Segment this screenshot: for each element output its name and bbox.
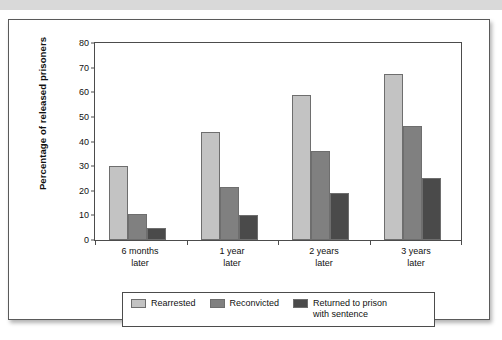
bar — [403, 126, 422, 241]
bar — [330, 193, 349, 240]
bar-group — [187, 43, 279, 240]
x-axis-label-line2: later — [186, 258, 278, 270]
legend-swatch — [131, 299, 146, 308]
legend-label: Rearrested — [151, 298, 196, 309]
top-decorative-band — [0, 0, 502, 10]
x-axis-label: 1 yearlater — [186, 246, 278, 269]
x-axis-label-line2: later — [278, 258, 370, 270]
bar — [220, 187, 239, 240]
x-axis-label-line2: later — [370, 258, 462, 270]
bar-series-layer — [95, 43, 461, 240]
bar-group-inner — [292, 43, 349, 240]
x-tick-mark — [95, 240, 96, 245]
bar — [422, 178, 441, 240]
x-axis-label-line1: 3 years — [401, 246, 431, 256]
bar — [384, 74, 403, 240]
y-axis-title: Percentage of released prisoners — [37, 34, 48, 194]
bar — [109, 166, 128, 240]
x-axis-label: 2 yearslater — [278, 246, 370, 269]
bar-group-inner — [109, 43, 166, 240]
x-axis-label-line1: 6 months — [121, 246, 158, 256]
bar — [147, 228, 166, 240]
plot-area: 80706050403020100 — [94, 42, 462, 241]
x-axis-label-line2: later — [94, 258, 186, 270]
legend-swatch — [210, 299, 225, 308]
x-axis-label-line1: 2 years — [309, 246, 339, 256]
bar — [311, 151, 330, 240]
legend-item[interactable]: Reconvicted — [210, 298, 280, 309]
bar — [239, 215, 258, 240]
chart-legend: RearrestedReconvictedReturned to prison … — [122, 292, 435, 327]
bar-group-inner — [384, 43, 441, 240]
x-axis-label: 3 yearslater — [370, 246, 462, 269]
bar-group-inner — [201, 43, 258, 240]
bar — [292, 95, 311, 240]
bar — [128, 214, 147, 240]
bar — [201, 132, 220, 240]
bar-group — [278, 43, 370, 240]
x-tick-mark — [187, 240, 188, 245]
x-axis-label-line1: 1 year — [219, 246, 244, 256]
bar-group — [370, 43, 462, 240]
x-tick-mark — [370, 240, 371, 245]
legend-item[interactable]: Rearrested — [131, 298, 196, 309]
chart-figure-card: Percentage of released prisoners 8070605… — [8, 19, 490, 320]
x-tick-mark — [278, 240, 279, 245]
x-axis-label: 6 monthslater — [94, 246, 186, 269]
x-tick-mark — [461, 240, 462, 245]
legend-label: Reconvicted — [230, 298, 280, 309]
legend-swatch — [293, 299, 308, 308]
legend-item[interactable]: Returned to prison with sentence — [293, 298, 387, 320]
bar-group — [95, 43, 187, 240]
legend-label: Returned to prison with sentence — [313, 298, 387, 320]
x-axis-labels: 6 monthslater1 yearlater2 yearslater3 ye… — [94, 246, 462, 269]
